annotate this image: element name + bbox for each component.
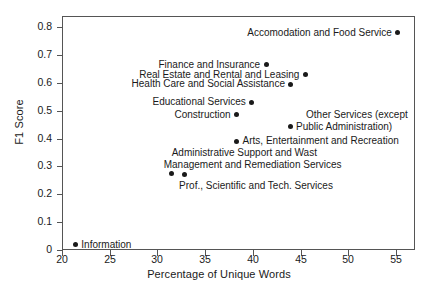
x-axis-tick-label: 45: [281, 254, 321, 265]
x-axis-tick-label: 25: [90, 254, 130, 265]
data-point[interactable]: [303, 72, 308, 77]
y-axis-tick: [57, 55, 63, 56]
y-axis-tick-label: 0.7: [12, 49, 52, 60]
data-point-label: Arts, Entertainment and Recreation: [243, 135, 399, 147]
y-axis-tick-label: 0.2: [12, 188, 52, 199]
data-point-label: Information: [81, 239, 131, 251]
data-point-label: Construction: [174, 109, 230, 121]
x-axis-tick-label: 50: [328, 254, 368, 265]
y-axis-tick: [57, 194, 63, 195]
y-axis-tick: [57, 166, 63, 167]
y-axis-tick: [57, 111, 63, 112]
x-axis-tick-label: 40: [233, 254, 273, 265]
y-axis-tick: [57, 27, 63, 28]
data-point-label: Health Care and Social Assistance: [132, 78, 285, 90]
x-axis-tick-label: 30: [137, 254, 177, 265]
y-axis-tick-label: 0.5: [12, 105, 52, 116]
data-point-label: Accomodation and Food Service: [247, 27, 392, 39]
x-axis-tick-label: 35: [185, 254, 225, 265]
y-axis-tick: [57, 83, 63, 84]
data-point-label: Educational Services: [152, 96, 245, 108]
y-axis-tick-label: 0.6: [12, 77, 52, 88]
y-axis-tick-label: 0.1: [12, 216, 52, 227]
y-axis-tick-label: 0.8: [12, 21, 52, 32]
data-point[interactable]: [288, 124, 293, 129]
scatter-plot-figure: F1 Score 00.10.20.30.40.50.60.70.8202530…: [0, 0, 438, 294]
y-axis-tick-label: 0.3: [12, 160, 52, 171]
x-axis-tick-label: 55: [376, 254, 416, 265]
data-point-label: Administrative Support and WastManagemen…: [164, 147, 342, 170]
plot-area: [62, 16, 415, 250]
data-point-label: Prof., Scientific and Tech. Services: [179, 180, 333, 192]
data-point-label: Other Services (exceptPublic Administrat…: [296, 109, 408, 132]
y-axis-tick-label: 0.4: [12, 133, 52, 144]
data-point[interactable]: [264, 62, 269, 67]
x-axis-label: Percentage of Unique Words: [0, 268, 438, 280]
y-axis-tick: [57, 139, 63, 140]
x-axis-tick-label: 20: [42, 254, 82, 265]
data-point[interactable]: [182, 172, 187, 177]
y-axis-tick: [57, 222, 63, 223]
data-point[interactable]: [234, 139, 239, 144]
